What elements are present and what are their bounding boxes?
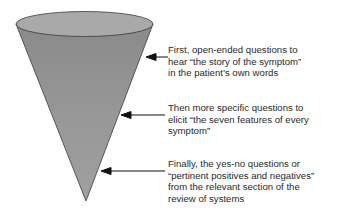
- cone: [16, 12, 153, 202]
- annotation-line: symptom”: [168, 125, 309, 137]
- annotation-line: First, open-ended questions to: [168, 44, 301, 56]
- arrow-2: [121, 112, 165, 119]
- arrow-1: [146, 54, 168, 61]
- annotation-line: in the patient’s own words: [168, 67, 301, 79]
- annotation-line: from the relevant section of the: [168, 181, 314, 193]
- annotation-line: review of systems: [168, 193, 314, 205]
- annotation-open-ended: First, open-ended questions to hear “the…: [168, 44, 301, 79]
- annotation-line: elicit “the seven features of every: [168, 114, 309, 126]
- annotation-line: Finally, the yes-no questions or: [168, 158, 314, 170]
- annotation-yes-no: Finally, the yes-no questions or “pertin…: [168, 158, 314, 204]
- cone-top-ellipse: [16, 12, 153, 37]
- annotation-line: hear “the story of the symptom”: [168, 56, 301, 68]
- annotation-line: “pertinent positives and negatives”: [168, 170, 314, 182]
- annotation-line: Then more specific questions to: [168, 102, 309, 114]
- annotation-specific: Then more specific questions to elicit “…: [168, 102, 309, 137]
- arrow-3: [101, 168, 165, 175]
